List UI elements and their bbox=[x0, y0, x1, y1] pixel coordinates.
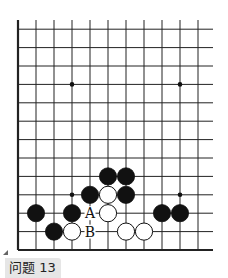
star-point bbox=[70, 193, 75, 198]
black-stone bbox=[27, 205, 44, 222]
black-stone bbox=[45, 223, 62, 240]
white-stone bbox=[99, 205, 116, 222]
white-stone bbox=[63, 223, 80, 240]
black-stone bbox=[117, 168, 134, 185]
caption-corner-mark bbox=[3, 250, 8, 255]
white-stone bbox=[117, 223, 134, 240]
star-point bbox=[178, 193, 183, 198]
black-stone bbox=[81, 186, 98, 203]
go-board: AB bbox=[0, 0, 228, 258]
problem-title: 问题 13 bbox=[9, 260, 56, 276]
black-stone bbox=[171, 205, 188, 222]
point-label-a: A bbox=[84, 205, 96, 221]
problem-caption: 问题 13 bbox=[5, 258, 61, 278]
black-stone bbox=[117, 186, 134, 203]
star-point bbox=[70, 82, 75, 87]
black-stone bbox=[99, 168, 116, 185]
white-stone bbox=[135, 223, 152, 240]
point-label-b: B bbox=[85, 224, 95, 240]
white-stone bbox=[99, 186, 116, 203]
star-point bbox=[178, 82, 183, 87]
black-stone bbox=[153, 205, 170, 222]
black-stone bbox=[63, 205, 80, 222]
